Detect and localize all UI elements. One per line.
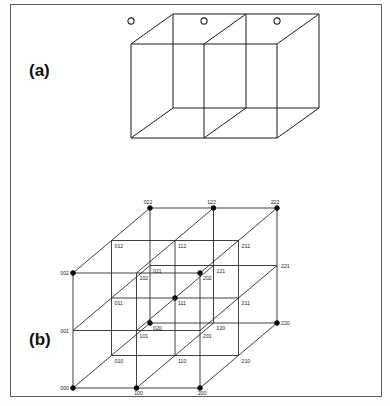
index-label-201: 201 [203,333,212,339]
index-label-202: 202 [203,275,212,281]
lattice-node-020 [148,321,153,326]
index-label-210: 210 [242,358,251,364]
lattice-node-222 [275,206,280,211]
index-label-212: 212 [242,243,251,249]
figure-frame: (a) (b) 00010020001011021002012022000110… [10,4,382,397]
lattice-node-122 [211,206,216,211]
index-label-001: 001 [60,328,69,334]
index-label-021: 021 [153,268,162,274]
lattice-node-000 [71,386,76,391]
index-label-122: 122 [207,199,216,205]
index-label-002: 002 [60,270,69,276]
index-label-112: 112 [178,243,186,249]
index-label-110: 110 [178,358,186,364]
index-label-120: 120 [217,325,226,331]
index-label-220: 220 [281,320,290,326]
index-label-020: 020 [153,325,162,331]
index-label-011: 011 [115,300,123,306]
lattice-node-220 [275,321,280,326]
index-label-200: 200 [198,390,207,396]
index-label-221: 221 [281,263,290,269]
lattice-node-202 [198,271,203,276]
index-label-211: 211 [242,300,250,306]
index-label-010: 010 [115,358,124,364]
index-label-111: 111 [178,300,186,306]
index-label-000: 000 [60,385,69,391]
index-label-102: 102 [140,275,149,281]
index-label-022: 022 [144,199,153,205]
index-label-012: 012 [115,243,124,249]
lattice-node-002 [71,271,76,276]
index-label-121: 121 [217,268,226,274]
lattice-node-111 [173,296,178,301]
index-label-101: 101 [140,333,149,339]
panel-b-diagram: 0001002000101102100201202200011012010111… [11,5,383,398]
lattice-node-022 [148,206,153,211]
index-label-100: 100 [134,390,143,396]
index-label-222: 222 [271,199,280,205]
